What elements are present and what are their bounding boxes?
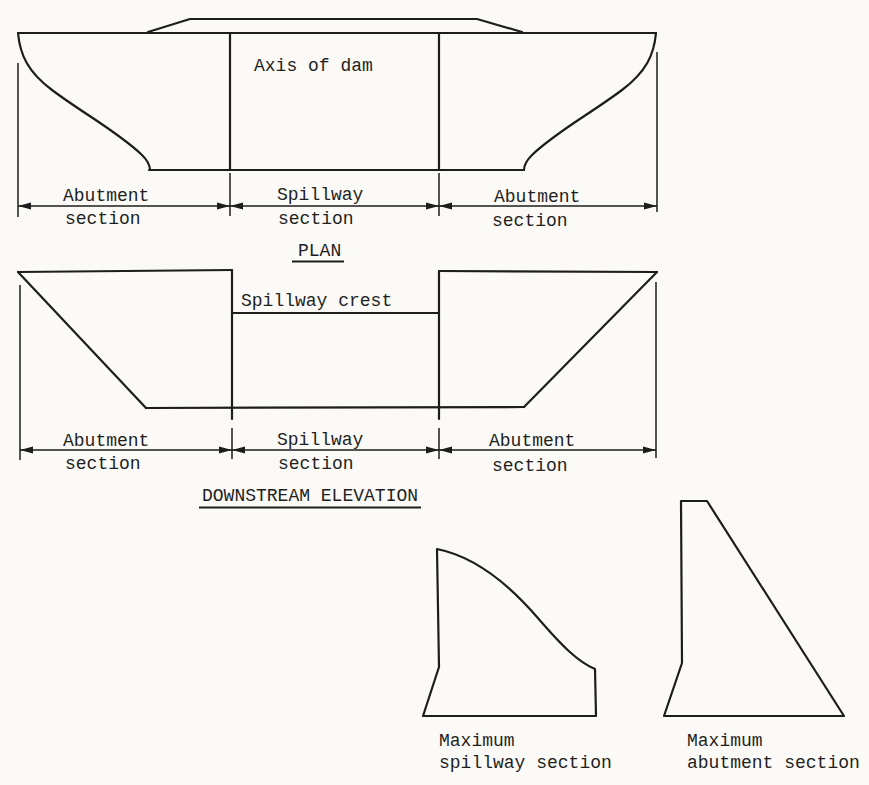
plan-arrow-left-end — [18, 203, 31, 210]
plan-arrow-div2-right — [439, 203, 452, 210]
elev-arrow-div1-right — [232, 447, 245, 454]
elev-top-right-line — [439, 271, 657, 272]
plan-dim-right-line2: section — [492, 211, 568, 231]
plan-dim-mid-line2: section — [278, 209, 354, 229]
max-abutment-section: Maximum abutment section — [664, 501, 860, 773]
plan-dim-left-line1: Abutment — [63, 186, 149, 206]
elevation-title: DOWNSTREAM ELEVATION — [202, 486, 418, 506]
dam-diagram-svg: Axis of dam Abutment section Spillway se… — [0, 0, 869, 785]
plan-arrow-div1-right — [230, 203, 243, 210]
abutment-section-label-line2: abutment section — [687, 753, 860, 773]
max-spillway-section: Maximum spillway section — [423, 549, 612, 773]
elev-arrow-left-end — [20, 447, 33, 454]
elev-top-left-line — [18, 270, 232, 272]
plan-dim-left-line2: section — [65, 209, 141, 229]
plan-arrow-div2-left — [426, 203, 439, 210]
axis-of-dam-label: Axis of dam — [254, 56, 373, 76]
plan-dim-mid-line1: Spillway — [277, 185, 364, 205]
spillway-section-label-line2: spillway section — [439, 753, 612, 773]
spillway-section-label-line1: Maximum — [439, 731, 515, 751]
elev-arrow-right-end — [643, 447, 656, 454]
elev-arrow-div2-left — [426, 447, 439, 454]
plan-arrow-right-end — [644, 203, 657, 210]
elev-right-slope — [524, 272, 657, 407]
elev-arrow-div2-right — [439, 447, 452, 454]
elev-dim-left-line2: section — [65, 454, 141, 474]
figure-page: Axis of dam Abutment section Spillway se… — [0, 0, 869, 785]
elev-arrow-div1-left — [219, 447, 232, 454]
plan-left-abutment-curve — [18, 33, 150, 170]
elev-dim-mid-line1: Spillway — [277, 430, 364, 450]
plan-crest-trapezoid — [148, 19, 522, 32]
abutment-section-label-line1: Maximum — [687, 731, 763, 751]
abutment-section-outline — [664, 501, 844, 716]
plan-view: Axis of dam Abutment section Spillway se… — [18, 19, 657, 262]
spillway-crest-label: Spillway crest — [241, 291, 392, 311]
elev-dim-right-line1: Abutment — [489, 431, 575, 451]
plan-dim-right-line1: Abutment — [494, 187, 580, 207]
elev-bottom-line — [146, 407, 524, 408]
elev-dim-left-line1: Abutment — [63, 431, 149, 451]
elev-left-slope — [18, 272, 146, 408]
spillway-section-outline — [423, 549, 596, 716]
elev-dim-mid-line2: section — [278, 454, 354, 474]
elevation-view: Spillway crest Abutment section Spillway… — [18, 270, 657, 508]
plan-arrow-div1-left — [217, 203, 230, 210]
plan-title: PLAN — [298, 241, 341, 261]
plan-right-abutment-curve — [524, 33, 656, 170]
elev-dim-right-line2: section — [492, 456, 568, 476]
